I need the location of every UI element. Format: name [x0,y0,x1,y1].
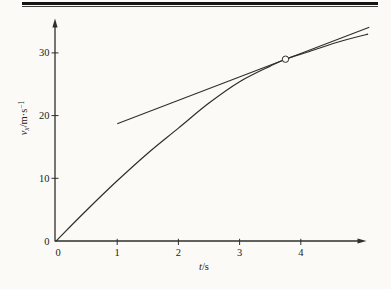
x-tick-label-2: 2 [176,247,181,258]
y-tick-label-20: 20 [39,110,50,121]
x-tick-label-1: 1 [115,247,120,258]
x-axis-unit: /s [202,261,209,272]
y-axis-arrowhead [52,19,57,28]
y-tick-label-0: 0 [44,236,49,247]
x-axis-arrowhead [358,238,367,243]
velocity-time-graph: 0 1 2 3 4 0 10 20 30 t/s vx/m·s−1 [0,0,391,289]
y-axis-unit: /m·s [18,109,29,128]
x-tick-label-3: 3 [237,247,242,258]
tangent-point-marker [282,56,288,62]
y-tick-label-30: 30 [39,47,50,58]
x-tick-label-0: 0 [55,247,60,258]
x-tick-label-4: 4 [298,247,304,258]
y-axis-title: vx/m·s−1 [17,100,32,135]
x-axis-title: t/s [199,261,209,272]
y-tick-label-10: 10 [39,173,50,184]
tangent-line [117,27,369,124]
chart-canvas: 0 1 2 3 4 0 10 20 30 t/s vx/m·s−1 [0,0,391,289]
velocity-curve [56,34,368,241]
plot-layer [56,27,369,241]
y-axis-unit-exponent: −1 [17,100,26,108]
